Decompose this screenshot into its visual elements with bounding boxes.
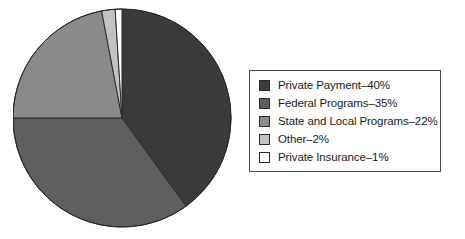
legend-label-state-and-local-programs: State and Local Programs–22% — [278, 115, 438, 127]
legend-item[interactable]: Other–2% — [259, 130, 440, 148]
legend-swatch-other — [259, 134, 270, 145]
legend-swatch-federal-programs — [259, 98, 270, 109]
legend-item[interactable]: Federal Programs–35% — [259, 94, 440, 112]
legend-item[interactable]: Private Insurance–1% — [259, 148, 440, 166]
legend-swatch-state-and-local-programs — [259, 116, 270, 127]
pie-chart-figure: Private Payment–40% Federal Programs–35%… — [0, 0, 465, 239]
pie-chart-plot — [13, 7, 233, 231]
legend-swatch-private-insurance — [259, 152, 270, 163]
legend-item[interactable]: Private Payment–40% — [259, 76, 440, 94]
legend-box: Private Payment–40% Federal Programs–35%… — [249, 70, 441, 172]
legend-label-private-payment: Private Payment–40% — [278, 79, 390, 91]
legend-label-other: Other–2% — [278, 133, 329, 145]
pie-svg — [13, 7, 233, 231]
legend-label-federal-programs: Federal Programs–35% — [278, 97, 397, 109]
legend-item[interactable]: State and Local Programs–22% — [259, 112, 440, 130]
legend-swatch-private-payment — [259, 80, 270, 91]
pie-slice-group — [13, 9, 231, 227]
legend-label-private-insurance: Private Insurance–1% — [278, 151, 389, 163]
